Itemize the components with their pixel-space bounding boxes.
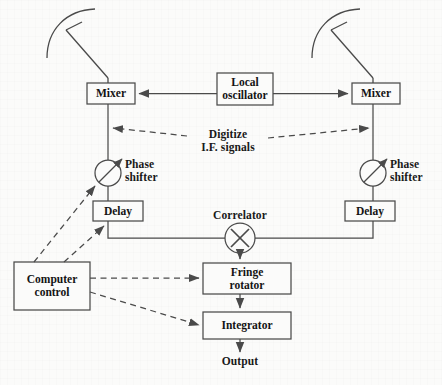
local-oscillator-label: Local oscillator <box>217 73 273 105</box>
integrator-label: Integrator <box>203 312 291 339</box>
digitize-annotation-label: Digitize I.F. signals <box>186 128 270 154</box>
antenna-dish-left <box>47 9 108 78</box>
control-to-delay-line <box>64 226 104 262</box>
mixer-right-label: Mixer <box>352 83 400 104</box>
computer-control-label: Computer control <box>14 262 90 310</box>
output-label: Output <box>210 355 270 368</box>
phase-shifter-right-symbol <box>360 159 387 186</box>
phase-shifter-right-label: Phase shifter <box>390 158 442 184</box>
if-line-left-to-correlator <box>108 221 225 238</box>
interferometer-block-diagram: Mixer Mixer Local oscillator Delay Delay… <box>0 0 442 385</box>
if-line-right-to-correlator <box>255 221 373 238</box>
mixer-left-label: Mixer <box>87 83 135 104</box>
phase-shifter-left-label: Phase shifter <box>125 158 181 184</box>
fringe-rotator-label: Fringe rotator <box>203 263 291 294</box>
control-to-phase-shifter-line <box>34 186 95 262</box>
correlator-label: Correlator <box>198 209 282 222</box>
correlator-symbol <box>225 223 255 253</box>
control-to-integrator-line <box>90 292 199 325</box>
delay-left-label: Delay <box>93 201 143 221</box>
delay-right-label: Delay <box>345 201 395 221</box>
antenna-dish-right <box>312 9 373 78</box>
phase-shifter-left-symbol <box>95 159 122 186</box>
